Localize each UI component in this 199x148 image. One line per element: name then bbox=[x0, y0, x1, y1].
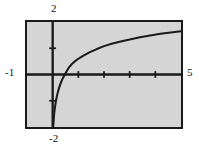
x-min-label: -1 bbox=[5, 67, 14, 78]
y-max-label: 2 bbox=[51, 3, 57, 14]
plot-canvas bbox=[27, 22, 181, 127]
log-curve bbox=[53, 31, 181, 127]
y-min-label: -2 bbox=[49, 133, 58, 144]
graph-figure: 2 -2 -1 5 bbox=[0, 0, 199, 148]
x-max-label: 5 bbox=[187, 67, 193, 78]
plot-window-frame bbox=[25, 20, 183, 129]
